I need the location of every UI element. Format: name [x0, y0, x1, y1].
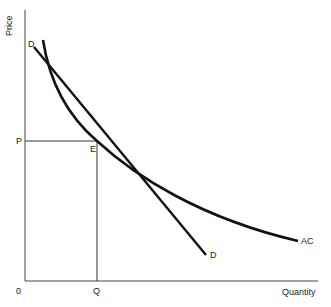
- demand-curve: [34, 47, 206, 255]
- quantity-point-label: Q: [93, 287, 100, 296]
- x-axis-label: Quantity: [282, 288, 316, 297]
- demand-label-top: D: [28, 40, 35, 49]
- origin-label: 0: [16, 287, 21, 296]
- price-label: P: [16, 137, 22, 146]
- equilibrium-label: E: [90, 145, 96, 154]
- y-axis-label: Price: [4, 15, 14, 36]
- diagram-canvas: [0, 0, 331, 307]
- average-cost-label: AC: [301, 237, 314, 246]
- demand-label-bottom: D: [210, 251, 217, 260]
